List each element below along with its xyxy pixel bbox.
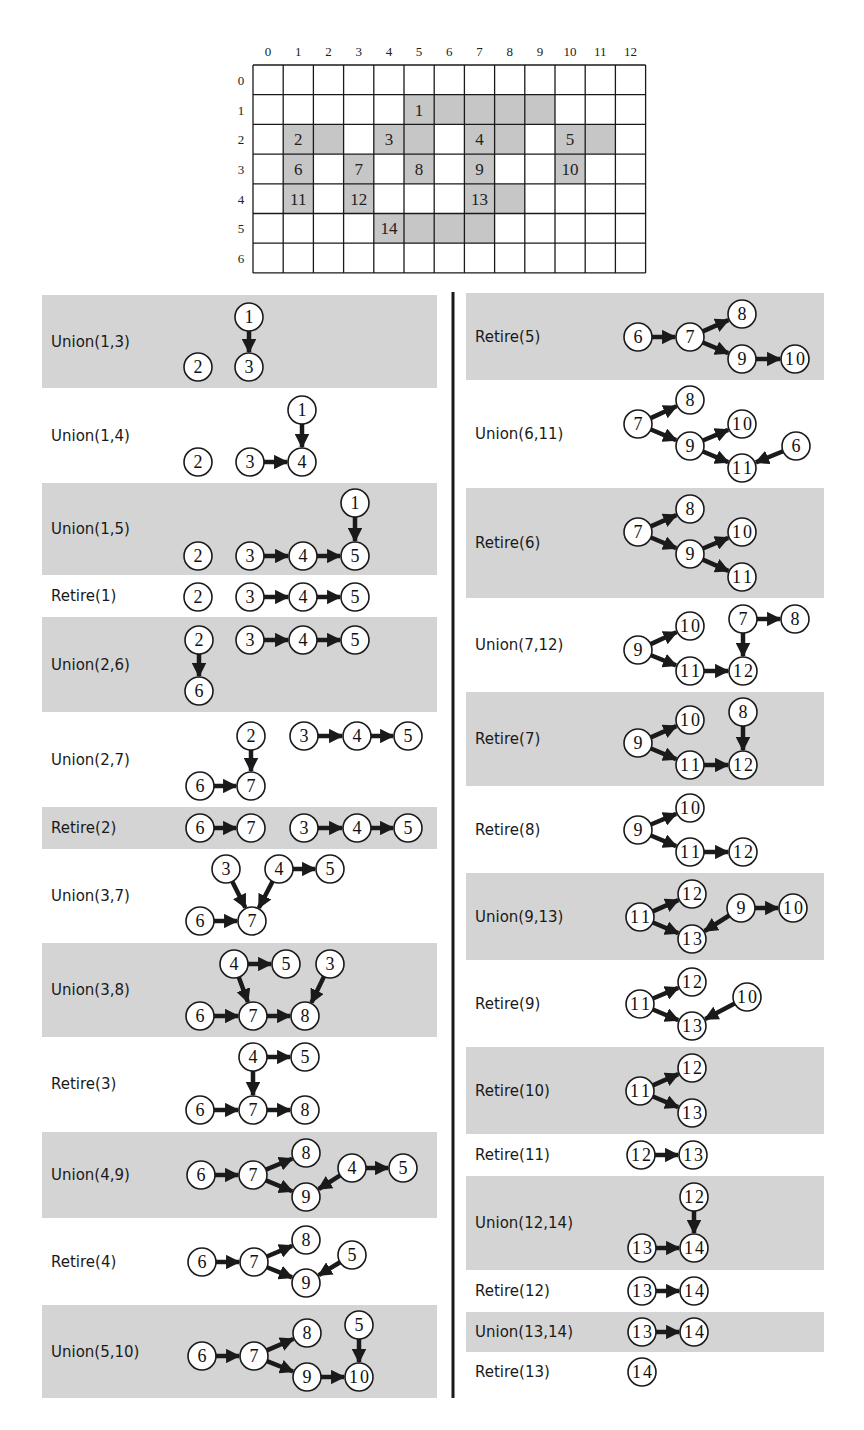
set-node: 3 <box>236 626 264 654</box>
parent-pointer-arrow <box>651 429 676 440</box>
set-node: 7 <box>237 772 265 800</box>
set-node: 5 <box>341 583 369 611</box>
set-node: 6 <box>186 1096 214 1124</box>
node-label: 6 <box>198 1346 207 1366</box>
cell-component-label: 13 <box>471 190 488 209</box>
set-node: 3 <box>236 542 264 570</box>
node-label: 7 <box>247 776 256 796</box>
cell-component-label: 3 <box>385 130 394 149</box>
set-node: 9 <box>728 345 756 373</box>
set-node: 3 <box>290 722 318 750</box>
column-index-label: 2 <box>325 44 332 59</box>
row-index-label: 1 <box>238 103 245 118</box>
step-label: Union(1,3) <box>51 333 130 351</box>
step-label: Union(1,5) <box>51 520 130 538</box>
node-label: 6 <box>197 1165 206 1185</box>
node-label: 5 <box>326 859 335 879</box>
node-label: 3 <box>300 726 309 746</box>
set-node: 13 <box>628 1318 656 1346</box>
step-panel: Union(6,11)78910116 <box>475 386 810 482</box>
node-label: 7 <box>250 1346 259 1366</box>
set-node: 8 <box>292 1226 320 1254</box>
step-panel: Retire(6)7891011 <box>466 488 824 598</box>
set-node: 8 <box>293 1319 321 1347</box>
set-node: 13 <box>628 1277 656 1305</box>
set-node: 12 <box>627 1141 655 1169</box>
node-label: 2 <box>194 452 203 472</box>
parent-pointer-arrow <box>651 835 676 846</box>
parent-pointer-arrow <box>756 451 783 462</box>
node-label: 3 <box>300 818 309 838</box>
parent-pointer-arrow <box>651 406 677 418</box>
node-label: 5 <box>351 630 360 650</box>
set-node: 1 <box>235 303 263 331</box>
step-panel: Union(2,7)234567 <box>51 722 422 800</box>
parent-pointer-arrow <box>703 430 728 441</box>
node-label: 6 <box>196 776 205 796</box>
set-node: 13 <box>679 1141 707 1169</box>
cell-component-label: 2 <box>294 130 303 149</box>
set-node: 4 <box>288 448 316 476</box>
node-label: 6 <box>196 1100 205 1120</box>
step-label: Union(6,11) <box>475 425 563 443</box>
step-label: Retire(7) <box>475 730 540 748</box>
step-label: Union(13,14) <box>475 1323 573 1341</box>
node-label: 8 <box>302 1230 311 1250</box>
set-node: 3 <box>212 855 240 883</box>
node-label: 9 <box>302 1273 311 1293</box>
shaded-cell <box>464 95 494 125</box>
node-label: 4 <box>298 452 307 472</box>
step-label: Union(5,10) <box>51 1343 139 1361</box>
set-node: 14 <box>680 1318 708 1346</box>
node-label: 6 <box>195 681 204 701</box>
set-node: 6 <box>186 772 214 800</box>
set-node: 3 <box>316 950 344 978</box>
cell-component-label: 7 <box>354 160 363 179</box>
node-label: 7 <box>634 414 643 434</box>
node-label: 4 <box>249 1047 258 1067</box>
step-panel: Union(7,12)910117812 <box>475 605 809 685</box>
set-node: 4 <box>289 626 317 654</box>
set-node: 7 <box>624 410 652 438</box>
step-panel: Retire(10)111213 <box>466 1047 824 1134</box>
parent-pointer-arrow <box>267 1267 292 1277</box>
set-node: 14 <box>628 1358 656 1386</box>
cell-component-label: 8 <box>415 160 424 179</box>
set-node: 7 <box>239 1161 267 1189</box>
step-label: Retire(6) <box>475 534 540 552</box>
node-label: 5 <box>355 1315 364 1335</box>
shaded-cell <box>495 95 525 125</box>
cell-component-label: 4 <box>475 130 484 149</box>
set-node: 5 <box>345 1311 373 1339</box>
node-label: 5 <box>282 954 291 974</box>
column-index-label: 5 <box>416 44 423 59</box>
step-label: Retire(8) <box>475 821 540 839</box>
set-node: 3 <box>236 583 264 611</box>
node-label: 8 <box>686 499 695 519</box>
parent-pointer-arrow <box>319 1262 340 1275</box>
set-node: 9 <box>676 432 704 460</box>
set-node: 11 <box>728 563 756 591</box>
set-node: 4 <box>343 814 371 842</box>
node-label: 5 <box>399 1158 408 1178</box>
step-panel: Union(4,9)678945 <box>42 1132 437 1218</box>
set-node: 8 <box>781 605 809 633</box>
shaded-cell <box>585 124 615 154</box>
cell-component-label: 12 <box>350 190 367 209</box>
step-panel: Union(9,13)111213910 <box>466 873 824 960</box>
step-panel: Union(1,3)123 <box>42 295 437 388</box>
row-index-label: 0 <box>238 73 245 88</box>
set-node: 11 <box>676 838 704 866</box>
set-node: 6 <box>185 677 213 705</box>
node-label: 9 <box>634 733 643 753</box>
set-node: 10 <box>676 706 704 734</box>
step-label: Retire(11) <box>475 1146 550 1164</box>
set-node: 8 <box>729 698 757 726</box>
step-label: Union(3,8) <box>51 981 130 999</box>
shaded-cell <box>495 124 525 154</box>
set-node: 9 <box>624 636 652 664</box>
step-label: Retire(5) <box>475 328 540 346</box>
set-node: 4 <box>343 722 371 750</box>
set-node: 10 <box>345 1363 373 1391</box>
set-node: 6 <box>187 1161 215 1189</box>
